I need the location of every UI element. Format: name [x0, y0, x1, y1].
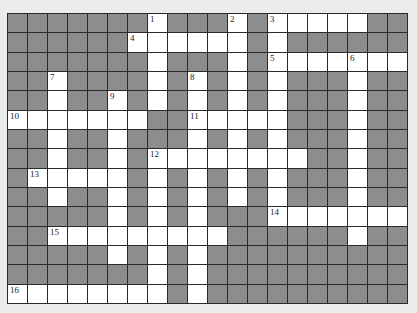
crossword-cell-open[interactable]: [268, 111, 287, 129]
crossword-cell-open[interactable]: 8: [188, 72, 207, 90]
crossword-cell-open[interactable]: [108, 111, 127, 129]
crossword-cell-open[interactable]: [308, 53, 327, 71]
crossword-cell-open[interactable]: [148, 227, 167, 245]
crossword-cell-open[interactable]: [168, 227, 187, 245]
crossword-cell-open[interactable]: [128, 227, 147, 245]
crossword-cell-open[interactable]: [168, 149, 187, 167]
crossword-cell-open[interactable]: [188, 169, 207, 187]
crossword-cell-open[interactable]: [228, 33, 247, 51]
crossword-cell-open[interactable]: [368, 53, 387, 71]
crossword-cell-open[interactable]: [148, 265, 167, 283]
crossword-cell-open[interactable]: [88, 111, 107, 129]
crossword-cell-open[interactable]: [308, 207, 327, 225]
crossword-cell-open[interactable]: [128, 111, 147, 129]
crossword-cell-open[interactable]: [268, 72, 287, 90]
crossword-cell-open[interactable]: 2: [228, 14, 247, 32]
crossword-cell-open[interactable]: [188, 188, 207, 206]
crossword-cell-open[interactable]: [348, 188, 367, 206]
crossword-cell-open[interactable]: 7: [48, 72, 67, 90]
crossword-cell-open[interactable]: [208, 149, 227, 167]
crossword-cell-open[interactable]: 11: [188, 111, 207, 129]
crossword-cell-open[interactable]: [268, 130, 287, 148]
crossword-cell-open[interactable]: [188, 265, 207, 283]
crossword-cell-open[interactable]: [188, 91, 207, 109]
crossword-cell-open[interactable]: 14: [268, 207, 287, 225]
crossword-cell-open[interactable]: [208, 227, 227, 245]
crossword-cell-open[interactable]: [348, 169, 367, 187]
crossword-cell-open[interactable]: [388, 53, 407, 71]
crossword-cell-open[interactable]: [228, 130, 247, 148]
crossword-cell-open[interactable]: 10: [8, 111, 27, 129]
crossword-cell-open[interactable]: [248, 111, 267, 129]
crossword-cell-open[interactable]: [388, 207, 407, 225]
crossword-cell-open[interactable]: [268, 149, 287, 167]
crossword-cell-open[interactable]: [268, 188, 287, 206]
crossword-cell-open[interactable]: [348, 130, 367, 148]
crossword-cell-open[interactable]: [128, 285, 147, 303]
crossword-cell-open[interactable]: [188, 33, 207, 51]
crossword-cell-open[interactable]: [268, 169, 287, 187]
crossword-cell-open[interactable]: [208, 33, 227, 51]
crossword-cell-open[interactable]: [48, 188, 67, 206]
crossword-cell-open[interactable]: [228, 188, 247, 206]
crossword-cell-open[interactable]: [188, 246, 207, 264]
crossword-cell-open[interactable]: [288, 207, 307, 225]
crossword-cell-open[interactable]: [48, 111, 67, 129]
crossword-cell-open[interactable]: [28, 111, 47, 129]
crossword-cell-open[interactable]: [288, 53, 307, 71]
crossword-cell-open[interactable]: [348, 111, 367, 129]
crossword-cell-open[interactable]: [328, 53, 347, 71]
crossword-cell-open[interactable]: [108, 227, 127, 245]
crossword-cell-open[interactable]: [348, 149, 367, 167]
crossword-cell-open[interactable]: [228, 53, 247, 71]
crossword-cell-open[interactable]: 16: [8, 285, 27, 303]
crossword-cell-open[interactable]: [188, 227, 207, 245]
crossword-cell-open[interactable]: [108, 285, 127, 303]
crossword-cell-open[interactable]: [368, 207, 387, 225]
crossword-cell-open[interactable]: [68, 227, 87, 245]
crossword-cell-open[interactable]: 4: [128, 33, 147, 51]
crossword-cell-open[interactable]: [268, 91, 287, 109]
crossword-cell-open[interactable]: [88, 227, 107, 245]
crossword-cell-open[interactable]: [48, 169, 67, 187]
crossword-cell-open[interactable]: [288, 149, 307, 167]
crossword-cell-open[interactable]: 15: [48, 227, 67, 245]
crossword-cell-open[interactable]: [48, 130, 67, 148]
crossword-cell-open[interactable]: [188, 130, 207, 148]
crossword-cell-open[interactable]: [148, 33, 167, 51]
crossword-cell-open[interactable]: [148, 91, 167, 109]
crossword-cell-open[interactable]: [268, 33, 287, 51]
crossword-cell-open[interactable]: [288, 14, 307, 32]
crossword-cell-open[interactable]: [148, 207, 167, 225]
crossword-cell-open[interactable]: [348, 227, 367, 245]
crossword-cell-open[interactable]: [328, 14, 347, 32]
crossword-cell-open[interactable]: [108, 207, 127, 225]
crossword-cell-open[interactable]: 12: [148, 149, 167, 167]
crossword-cell-open[interactable]: [328, 207, 347, 225]
crossword-cell-open[interactable]: [48, 285, 67, 303]
crossword-cell-open[interactable]: [68, 169, 87, 187]
crossword-cell-open[interactable]: [108, 149, 127, 167]
crossword-cell-open[interactable]: [168, 33, 187, 51]
crossword-cell-open[interactable]: [108, 130, 127, 148]
crossword-cell-open[interactable]: [208, 111, 227, 129]
crossword-cell-open[interactable]: [148, 285, 167, 303]
crossword-cell-open[interactable]: [148, 53, 167, 71]
crossword-cell-open[interactable]: [348, 207, 367, 225]
crossword-cell-open[interactable]: [348, 72, 367, 90]
crossword-cell-open[interactable]: [148, 188, 167, 206]
crossword-cell-open[interactable]: [88, 285, 107, 303]
crossword-cell-open[interactable]: [188, 149, 207, 167]
crossword-cell-open[interactable]: [68, 111, 87, 129]
crossword-cell-open[interactable]: [228, 91, 247, 109]
crossword-cell-open[interactable]: [188, 285, 207, 303]
crossword-cell-open[interactable]: [228, 169, 247, 187]
crossword-cell-open[interactable]: [148, 246, 167, 264]
crossword-cell-open[interactable]: [228, 149, 247, 167]
crossword-cell-open[interactable]: [228, 111, 247, 129]
crossword-cell-open[interactable]: 1: [148, 14, 167, 32]
crossword-cell-open[interactable]: 13: [28, 169, 47, 187]
crossword-cell-open[interactable]: [248, 149, 267, 167]
crossword-cell-open[interactable]: 3: [268, 14, 287, 32]
crossword-cell-open[interactable]: [88, 169, 107, 187]
